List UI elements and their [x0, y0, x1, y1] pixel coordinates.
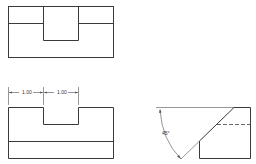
- front-view: [9, 87, 114, 159]
- top-view: [9, 7, 114, 58]
- angle-label: 45°: [162, 131, 170, 136]
- technical-drawing: [0, 0, 256, 164]
- dimension-label-right: 1.00: [57, 90, 67, 95]
- side-view: [156, 108, 251, 160]
- dimension-label-left: 1.00: [22, 90, 32, 95]
